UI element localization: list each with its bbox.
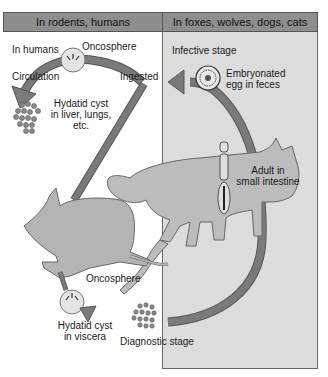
label-hydatid-viscera: Hydatid cyst in viscera: [50, 320, 120, 342]
hydatid-liver-line-2: in liver, lungs,: [46, 109, 116, 120]
hydatid-viscera-line-1: Hydatid cyst: [50, 320, 120, 331]
embryonated-line-1: Embryonated: [226, 68, 285, 79]
label-circulation: Circulation: [12, 71, 59, 82]
label-infective-stage: Infective stage: [172, 45, 236, 56]
label-hydatid-liver: Hydatid cyst in liver, lungs, etc.: [46, 98, 116, 131]
label-oncosphere-top: Oncosphere: [82, 41, 136, 52]
cat-silhouette: [107, 138, 299, 294]
label-embryonated-egg: Embryonated egg in feces: [226, 68, 285, 90]
label-diagnostic-stage: Diagnostic stage: [120, 336, 194, 347]
hydatid-cyst-liver-icon: [14, 102, 41, 134]
embryonated-line-2: egg in feces: [226, 79, 285, 90]
adult-line-2: small intestine: [228, 176, 308, 187]
hydatid-liver-line-3: etc.: [46, 120, 116, 131]
diagnostic-egg-cluster-icon: [132, 303, 156, 328]
adult-line-1: Adult in: [228, 165, 308, 176]
label-in-humans: In humans: [12, 44, 59, 55]
label-ingested: Ingested: [120, 71, 158, 82]
hydatid-liver-line-1: Hydatid cyst: [46, 98, 116, 109]
label-adult-intestine: Adult in small intestine: [228, 165, 308, 187]
embryonated-egg-icon: [196, 66, 220, 90]
hydatid-viscera-line-2: in viscera: [50, 331, 120, 342]
label-oncosphere-bottom: Oncosphere: [86, 273, 140, 284]
